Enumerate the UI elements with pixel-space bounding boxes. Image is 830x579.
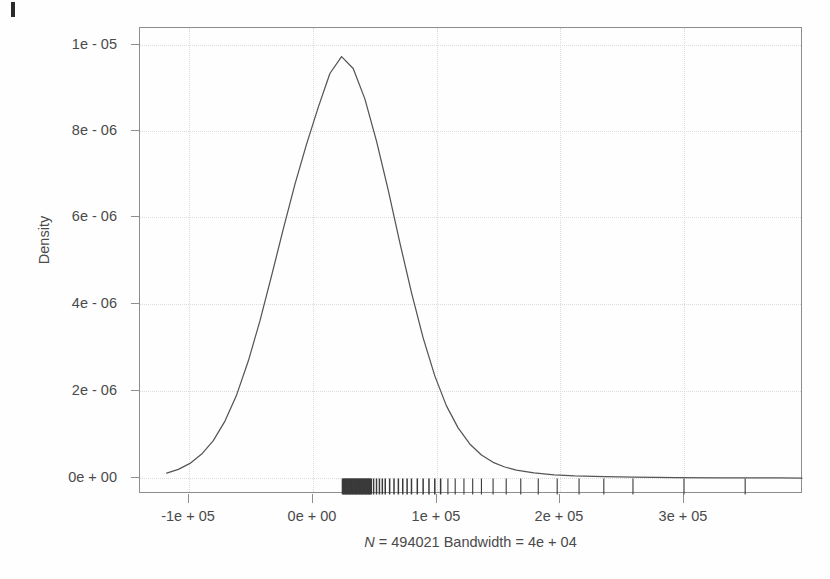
y-tick-mark: [131, 390, 139, 391]
gridline-vertical-0e-00: [313, 28, 314, 492]
y-tick-mark: [131, 130, 139, 131]
x-tick-label-3e-05: 3e + 05: [613, 508, 753, 524]
x-tick-label-1e-05: 1e + 05: [366, 508, 506, 524]
y-tick-label-8e-06: 8e - 06: [7, 122, 117, 138]
gridline-horizontal-8e-06: [140, 131, 801, 132]
y-tick-label-1e-05: 1e - 05: [7, 36, 117, 52]
x-tick-mark: [312, 494, 313, 503]
plot-panel: [139, 27, 802, 493]
x-tick-mark: [188, 494, 189, 503]
x-tick-label--1e-05: -1e + 05: [118, 508, 258, 524]
gridline-horizontal-1e-05: [140, 45, 801, 46]
x-tick-mark: [436, 494, 437, 503]
scan-artifact: [11, 2, 15, 17]
y-axis-title: Density: [36, 190, 52, 290]
x-axis-caption-n: N: [364, 534, 374, 550]
y-tick-mark: [131, 477, 139, 478]
x-axis-caption: N = 494021 Bandwidth = 4e + 04: [139, 534, 802, 550]
gridline-vertical--1e-05: [189, 28, 190, 492]
x-tick-label-2e-05: 2e + 05: [489, 508, 629, 524]
x-tick-mark: [559, 494, 560, 503]
gridline-vertical-1e-05: [437, 28, 438, 492]
y-tick-label-4e-06: 4e - 06: [7, 295, 117, 311]
gridline-horizontal-6e-06: [140, 217, 801, 218]
y-tick-mark: [131, 44, 139, 45]
x-tick-mark: [683, 494, 684, 503]
gridline-horizontal-2e-06: [140, 391, 801, 392]
y-tick-mark: [131, 216, 139, 217]
gridline-vertical-3e-05: [684, 28, 685, 492]
y-tick-label-2e-06: 2e - 06: [7, 382, 117, 398]
y-tick-label-6e-06: 6e - 06: [7, 208, 117, 224]
x-tick-label-0e-00: 0e + 00: [242, 508, 382, 524]
x-axis-caption-rest: = 494021 Bandwidth = 4e + 04: [375, 534, 577, 550]
gridline-vertical-2e-05: [560, 28, 561, 492]
y-tick-label-0e-00: 0e + 00: [7, 469, 117, 485]
gridline-horizontal-0e-00: [140, 478, 801, 479]
gridline-horizontal-4e-06: [140, 304, 801, 305]
y-tick-mark: [131, 303, 139, 304]
density-plot-figure: 1e - 05 8e - 06 6e - 06 4e - 06 2e - 06 …: [0, 0, 830, 579]
